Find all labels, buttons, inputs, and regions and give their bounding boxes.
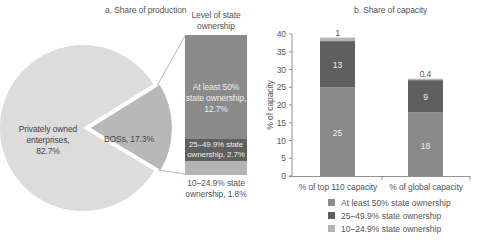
bar2-label-low: 18 xyxy=(408,141,443,151)
legend-item-at-least-50: At least 50% state ownership xyxy=(328,196,451,209)
figure: a. Share of production Privately owned e… xyxy=(0,0,478,243)
ytick-30: 30 xyxy=(276,65,286,75)
x-category-global: % of global capacity xyxy=(386,182,466,192)
x-category-top110: % of top 110 capacity xyxy=(297,182,379,192)
bar1-label-mid: 13 xyxy=(320,60,355,70)
bar2-label-mid: 9 xyxy=(408,92,443,102)
legend-swatch-10-24 xyxy=(328,225,335,232)
legend-item-25-49: 25–49.9% state ownership xyxy=(328,209,451,222)
ytick-20: 20 xyxy=(276,100,286,110)
ytick-15: 15 xyxy=(276,118,286,128)
legend-swatch-25-49 xyxy=(328,212,335,219)
bar1-label-top: 1 xyxy=(320,28,355,38)
bar1-seg-at-least-50 xyxy=(320,38,355,42)
legend-label-25-49: 25–49.9% state ownership xyxy=(341,211,441,221)
legend-swatch-at-least-50 xyxy=(328,199,335,206)
ytick-40: 40 xyxy=(276,29,286,39)
legend-label-at-least-50: At least 50% state ownership xyxy=(341,198,451,208)
bar1-label-low: 25 xyxy=(320,128,355,138)
ytick-10: 10 xyxy=(276,136,286,146)
ytick-35: 35 xyxy=(276,47,286,57)
legend: At least 50% state ownership 25–49.9% st… xyxy=(328,196,451,235)
legend-item-10-24: 10–24.9% state ownership xyxy=(328,222,451,235)
ytick-5: 5 xyxy=(276,153,286,163)
legend-label-10-24: 10–24.9% state ownership xyxy=(341,224,441,234)
bar2-label-top: 0.4 xyxy=(408,69,443,79)
y-axis-label: % of capacity xyxy=(265,70,275,140)
ytick-0: 0 xyxy=(276,171,286,181)
ytick-25: 25 xyxy=(276,82,286,92)
